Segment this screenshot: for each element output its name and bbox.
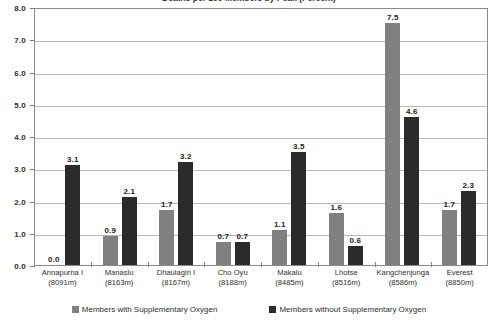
bar-value-label: 0.7: [236, 232, 248, 241]
bar-group: 0.70.7: [205, 9, 262, 265]
x-axis-category-name: Cho Oyu: [204, 268, 261, 278]
bar-group: 1.72.3: [431, 9, 488, 265]
x-axis-category: Lhotse(8516m): [318, 268, 375, 298]
x-axis-category: Manaslu(8163m): [91, 268, 148, 298]
bar-group: 1.73.2: [148, 9, 205, 265]
x-axis-category: Everest(8850m): [431, 268, 488, 298]
x-axis-tick-mark: [318, 262, 319, 267]
bar-series-1[interactable]: 0.7: [235, 242, 250, 265]
x-axis-tick-mark: [375, 262, 376, 267]
x-axis-category-name: Annapurna I: [34, 268, 91, 278]
legend-item[interactable]: Members without Supplementary Oxygen: [269, 305, 426, 314]
bar-value-label: 0.0: [48, 255, 60, 264]
bar-group: 1.13.5: [261, 9, 318, 265]
x-axis-tick-mark: [204, 262, 205, 267]
bar-series-1[interactable]: 2.3: [461, 191, 476, 265]
x-axis-category-elevation: (8167m): [148, 278, 205, 288]
y-axis-tick-label: 8.0: [14, 4, 26, 13]
x-axis-category: Annapurna I(8091m): [34, 268, 91, 298]
bar-value-label: 1.6: [330, 203, 342, 212]
legend-label: Members without Supplementary Oxygen: [279, 305, 426, 314]
x-axis: Annapurna I(8091m)Manaslu(8163m)Dhaulagi…: [34, 268, 488, 298]
chart-title: Deaths per 100 Members by Peak (Percent): [0, 0, 498, 3]
y-axis-tick-label: 5.0: [14, 100, 26, 109]
bar-series-0[interactable]: 1.7: [159, 210, 174, 265]
legend-label: Members with Supplementary Oxygen: [82, 305, 218, 314]
y-axis: 8.07.06.05.04.03.02.01.00.0: [0, 8, 30, 266]
x-axis-category-elevation: (8163m): [91, 278, 148, 288]
x-axis-tick-mark: [431, 262, 432, 267]
x-axis-tick-mark: [261, 262, 262, 267]
y-axis-tick-label: 4.0: [14, 133, 26, 142]
bar-series-1[interactable]: 3.2: [178, 162, 193, 265]
x-axis-category-name: Everest: [431, 268, 488, 278]
bar-value-label: 2.1: [123, 187, 135, 196]
x-axis-category: Cho Oyu(8188m): [204, 268, 261, 298]
x-axis-category-elevation: (8516m): [318, 278, 375, 288]
bars-layer: 0.03.10.92.11.73.20.70.71.13.51.60.67.54…: [35, 9, 487, 265]
chart-legend: Members with Supplementary OxygenMembers…: [0, 305, 498, 314]
legend-swatch-icon: [72, 306, 79, 313]
y-axis-tick-label: 1.0: [14, 229, 26, 238]
bar-series-1[interactable]: 3.1: [65, 165, 80, 265]
bar-chart: Deaths per 100 Members by Peak (Percent)…: [0, 0, 498, 325]
bar-value-label: 3.5: [293, 142, 305, 151]
x-axis-category-elevation: (8091m): [34, 278, 91, 288]
bar-series-0[interactable]: 7.5: [385, 23, 400, 265]
y-axis-tick-label: 3.0: [14, 165, 26, 174]
y-axis-tick-label: 0.0: [14, 262, 26, 271]
bar-value-label: 1.7: [161, 200, 173, 209]
x-axis-category: Kangchenjunga(8586m): [375, 268, 432, 298]
x-axis-category: Dhaulagiri I(8167m): [148, 268, 205, 298]
bar-group: 0.03.1: [35, 9, 92, 265]
y-axis-tick-label: 2.0: [14, 197, 26, 206]
x-axis-category-name: Manaslu: [91, 268, 148, 278]
x-axis-tick-mark: [91, 262, 92, 267]
x-axis-category-elevation: (8850m): [431, 278, 488, 288]
bar-series-1[interactable]: 0.6: [348, 246, 363, 265]
bar-series-0[interactable]: 0.9: [103, 236, 118, 265]
bar-group: 1.60.6: [318, 9, 375, 265]
bar-series-0[interactable]: 1.7: [442, 210, 457, 265]
legend-item[interactable]: Members with Supplementary Oxygen: [72, 305, 218, 314]
bar-value-label: 0.9: [104, 226, 116, 235]
y-axis-tick-label: 6.0: [14, 68, 26, 77]
bar-value-label: 0.6: [349, 236, 361, 245]
x-axis-tick-mark: [148, 262, 149, 267]
x-axis-category: Makalu(8485m): [261, 268, 318, 298]
bar-value-label: 3.2: [180, 152, 192, 161]
bar-series-1[interactable]: 4.6: [404, 117, 419, 265]
x-axis-category-elevation: (8188m): [204, 278, 261, 288]
x-axis-category-elevation: (8485m): [261, 278, 318, 288]
x-axis-category-name: Lhotse: [318, 268, 375, 278]
bar-value-label: 7.5: [387, 13, 399, 22]
bar-value-label: 3.1: [67, 155, 79, 164]
bar-value-label: 1.1: [274, 220, 286, 229]
bar-group: 7.54.6: [374, 9, 431, 265]
plot-area: 0.03.10.92.11.73.20.70.71.13.51.60.67.54…: [34, 8, 488, 266]
x-axis-category-name: Kangchenjunga: [375, 268, 432, 278]
x-axis-category-name: Dhaulagiri I: [148, 268, 205, 278]
bar-value-label: 4.6: [406, 107, 418, 116]
y-axis-tick-label: 7.0: [14, 36, 26, 45]
bar-series-0[interactable]: 1.6: [329, 213, 344, 265]
bar-value-label: 0.7: [217, 232, 229, 241]
x-axis-tick-mark: [34, 262, 35, 267]
bar-series-0[interactable]: 0.7: [216, 242, 231, 265]
x-axis-category-elevation: (8586m): [375, 278, 432, 288]
legend-swatch-icon: [269, 306, 276, 313]
bar-value-label: 1.7: [443, 200, 455, 209]
bar-series-0[interactable]: 1.1: [272, 230, 287, 265]
bar-value-label: 2.3: [462, 181, 474, 190]
bar-group: 0.92.1: [92, 9, 149, 265]
bar-series-1[interactable]: 2.1: [122, 197, 137, 265]
bar-series-1[interactable]: 3.5: [291, 152, 306, 265]
x-axis-category-name: Makalu: [261, 268, 318, 278]
